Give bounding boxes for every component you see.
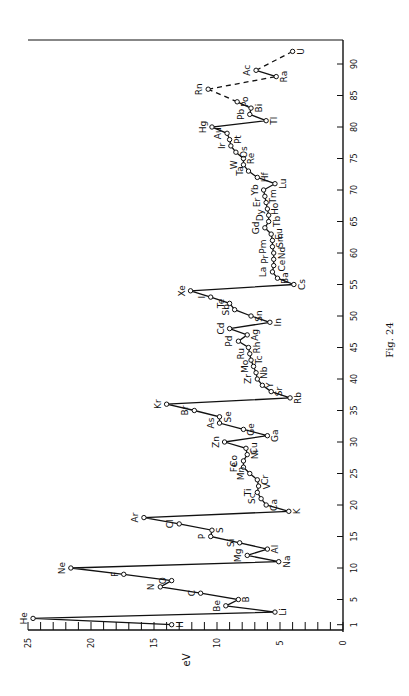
element-label-s: S (215, 527, 225, 533)
element-label-ar: Ar (130, 512, 140, 522)
element-label-ce: Ce (277, 259, 287, 271)
data-point (246, 345, 250, 349)
element-label-f: F (110, 572, 120, 577)
element-label-tm: Tm (268, 189, 278, 204)
data-point (254, 68, 258, 72)
element-label-ac: Ac (242, 65, 252, 76)
data-point (268, 320, 272, 324)
element-label-b: B (241, 596, 251, 602)
data-point (272, 263, 276, 267)
z-tick-label: 55 (350, 279, 359, 289)
data-point (263, 194, 267, 198)
data-point (275, 276, 279, 280)
element-label-ca: Ca (269, 499, 279, 511)
element-label-ga: Ga (270, 429, 280, 442)
data-point (277, 560, 281, 564)
element-label-he: He (19, 612, 29, 625)
element-label-br: Br (180, 405, 190, 415)
element-label-dy: Dy (255, 208, 265, 221)
element-label-hg: Hg (198, 121, 208, 133)
element-label-sr: Sr (274, 387, 284, 397)
element-label-po: Po (240, 96, 250, 107)
data-point (31, 616, 35, 620)
data-point (169, 578, 173, 582)
element-label-ge: Ge (246, 423, 256, 436)
data-point (266, 219, 270, 223)
element-label-tb: Tb (272, 216, 282, 228)
data-point (217, 415, 221, 419)
data-point (209, 295, 213, 299)
element-label-gd: Gd (251, 221, 261, 234)
element-label-as: As (206, 417, 216, 428)
z-tick-label: 30 (350, 437, 359, 447)
data-point (249, 314, 253, 318)
z-tick-label: 1 (350, 622, 359, 627)
data-point (236, 597, 240, 601)
z-tick-label: 15 (350, 531, 359, 541)
data-point (263, 226, 267, 230)
element-label-pd: Pd (224, 336, 234, 347)
element-label-ir: Ir (217, 142, 227, 149)
element-label-co: Co (229, 455, 239, 467)
z-tick-label: 20 (350, 500, 359, 510)
element-label-te: Te (216, 298, 226, 309)
data-point (269, 232, 273, 236)
element-label-li: Li (278, 608, 288, 616)
data-point (272, 251, 276, 255)
element-label-cu: Cu (249, 442, 259, 454)
ev-tick-label: 15 (150, 638, 159, 648)
z-tick-label: 85 (350, 90, 359, 100)
ionization-energy-chart: 151015202530354045505560657075808590 051… (0, 0, 409, 696)
element-label-na: Na (282, 556, 292, 568)
data-point (287, 509, 291, 513)
element-label-rh: Rh (252, 342, 262, 354)
z-tick-label: 50 (350, 311, 359, 321)
data-point (222, 440, 226, 444)
data-point (255, 175, 259, 179)
element-label-p: P (197, 533, 207, 539)
element-label-os: Os (239, 146, 249, 158)
element-label-u: U (296, 48, 306, 55)
element-label-zn: Zn (211, 436, 221, 448)
data-point (217, 421, 221, 425)
data-point (270, 270, 274, 274)
data-point (288, 396, 292, 400)
data-point (69, 566, 73, 570)
z-tick-label: 90 (350, 59, 359, 69)
element-label-pr: Pr (260, 255, 270, 264)
data-point (164, 402, 168, 406)
data-point (269, 389, 273, 393)
element-label-nd: Nd (277, 247, 287, 259)
plot-frame (28, 40, 343, 632)
data-point (225, 131, 229, 135)
element-label-be: Be (212, 599, 222, 611)
z-tick-label: 5 (350, 597, 359, 602)
element-label-ne: Ne (57, 561, 67, 574)
data-point (259, 497, 263, 501)
element-label-se: Se (223, 411, 233, 423)
element-label-cs: Cs (297, 279, 307, 290)
element-label-si: Si (226, 539, 236, 547)
element-label-cr: Cr (260, 475, 270, 485)
data-point (210, 528, 214, 532)
element-label-ra: Ra (279, 71, 289, 83)
element-label-tl: Tl (269, 117, 279, 126)
ev-tick-label: 0 (339, 640, 348, 645)
z-tick-label: 40 (350, 374, 359, 384)
element-label-lu: Lu (278, 178, 288, 189)
data-point (188, 289, 192, 293)
data-point (260, 383, 264, 387)
data-point (265, 547, 269, 551)
element-label-pt: Pt (233, 135, 243, 144)
element-label-hf: Hf (260, 172, 270, 183)
data-point (273, 610, 277, 614)
data-point (292, 282, 296, 286)
data-point (264, 503, 268, 507)
z-tick-label: 75 (350, 153, 359, 163)
element-label-c: C (187, 590, 197, 596)
element-label-pb: Pb (236, 109, 246, 120)
data-point (224, 604, 228, 608)
data-point (209, 534, 213, 538)
data-point (241, 427, 245, 431)
element-label-i: I (197, 296, 207, 299)
